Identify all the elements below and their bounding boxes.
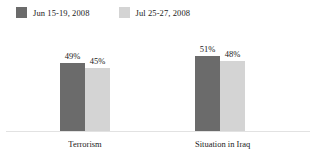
bar-value-label: 51%	[200, 44, 216, 54]
bar-wrap: 51%	[195, 56, 220, 131]
bar-wrap: 45%	[85, 68, 110, 131]
bar-value-label: 45%	[90, 56, 106, 66]
bar-group-terrorism: 49% 45%	[60, 63, 110, 131]
legend-item-jun: Jun 15-19, 2008	[16, 7, 90, 18]
legend-swatch-icon	[119, 7, 130, 18]
bar-group-situation-in-iraq: 51% 48%	[195, 56, 245, 131]
bar-chart: Jun 15-19, 2008 Jul 25-27, 2008 49% 45% …	[0, 0, 316, 161]
bar-jun-situation-in-iraq	[195, 56, 220, 131]
axis-baseline	[6, 131, 310, 132]
plot-area: 49% 45% 51% 48%	[0, 30, 316, 132]
bar-jun-terrorism	[60, 63, 85, 131]
bar-jul-terrorism	[85, 68, 110, 131]
bar-jul-situation-in-iraq	[220, 61, 245, 131]
bar-value-label: 49%	[65, 51, 81, 61]
category-label-terrorism: Terrorism	[60, 139, 110, 149]
legend-label-jul: Jul 25-27, 2008	[136, 8, 191, 18]
legend-swatch-icon	[16, 7, 27, 18]
bar-wrap: 48%	[220, 61, 245, 131]
legend-item-jul: Jul 25-27, 2008	[119, 7, 191, 18]
legend-label-jun: Jun 15-19, 2008	[33, 8, 90, 18]
bar-value-label: 48%	[225, 49, 241, 59]
bar-wrap: 49%	[60, 63, 85, 131]
category-label-situation-in-iraq: Situation in Iraq	[195, 139, 245, 149]
chart-legend: Jun 15-19, 2008 Jul 25-27, 2008	[16, 7, 190, 18]
